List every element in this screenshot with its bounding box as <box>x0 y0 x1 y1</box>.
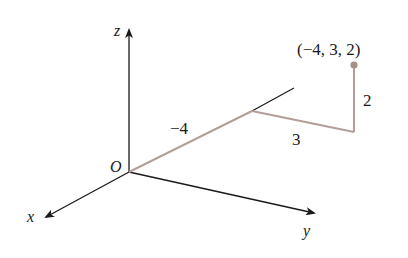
x-step-label: −4 <box>170 119 189 138</box>
point-label: (−4, 3, 2) <box>297 40 360 59</box>
negative-x-axis-extension <box>252 88 294 111</box>
point-marker <box>350 61 357 68</box>
path-y-segment <box>252 111 354 132</box>
origin-label: O <box>110 158 122 175</box>
y-axis <box>129 172 314 213</box>
z-step-label: 2 <box>363 91 372 110</box>
y-axis-label: y <box>301 222 311 240</box>
y-step-label: 3 <box>292 130 301 149</box>
path-x-segment <box>129 111 252 172</box>
coordinate-diagram: z x y O (−4, 3, 2) −4 3 2 <box>0 0 408 258</box>
z-axis-label: z <box>113 22 121 39</box>
x-axis <box>46 172 129 217</box>
x-axis-label: x <box>26 208 34 225</box>
